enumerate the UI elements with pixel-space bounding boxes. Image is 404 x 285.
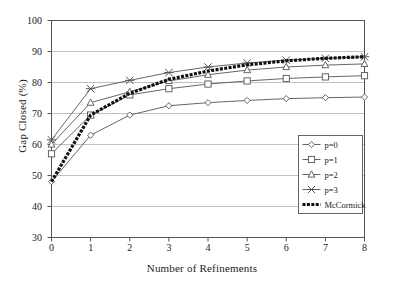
legend-label: p=2 — [325, 170, 338, 180]
legend-label: p=0 — [325, 140, 338, 150]
series-p3 — [47, 53, 369, 143]
chart-legend: p=0p=1p=2p=3McCormick — [299, 136, 367, 214]
legend-label: McCormick — [325, 200, 367, 210]
x-axis-ticks — [52, 238, 365, 242]
plot-canvas: p=0p=1p=2p=3McCormick — [0, 0, 404, 285]
legend-label: p=3 — [325, 185, 338, 195]
legend-label: p=1 — [325, 155, 338, 165]
chart-figure: Gap Closed (%) Number of Refinements 100… — [0, 0, 404, 285]
